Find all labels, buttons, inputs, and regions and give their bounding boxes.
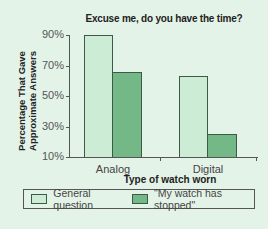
legend-swatch-general <box>31 194 47 204</box>
bar-analog-general <box>84 35 113 158</box>
x-tick-mark <box>160 157 161 161</box>
y-tick-mark <box>66 35 70 36</box>
legend-label-general: General question <box>53 187 124 211</box>
bar-digital-stopped <box>207 134 237 158</box>
y-tick-10: 10% <box>24 150 64 162</box>
x-axis-label: Type of watch worn <box>100 174 240 185</box>
y-tick-mark <box>66 96 70 97</box>
bar-analog-stopped <box>112 72 142 158</box>
legend-label-stopped: "My watch has stopped" <box>154 187 254 211</box>
y-tick-mark <box>66 66 70 67</box>
y-tick-50: 50% <box>24 89 64 101</box>
y-tick-90: 90% <box>24 28 64 40</box>
bar-digital-general <box>179 76 208 158</box>
legend: General question "My watch has stopped" <box>23 189 255 209</box>
chart-title: Excuse me, do you have the time? <box>0 13 268 24</box>
y-tick-mark <box>66 127 70 128</box>
y-tick-30: 30% <box>24 120 64 132</box>
x-axis <box>66 157 258 158</box>
legend-swatch-stopped <box>132 194 148 204</box>
y-tick-70: 70% <box>24 59 64 71</box>
x-tick-mark <box>256 157 257 161</box>
